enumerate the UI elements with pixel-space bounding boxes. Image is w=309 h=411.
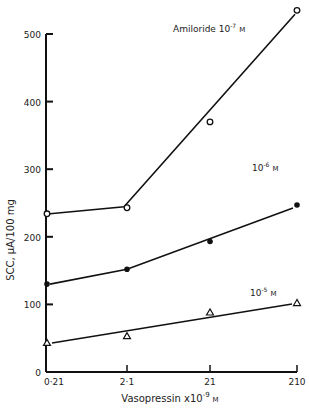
series-labels: Amiloride 10-7M10-6M10-5M [173, 22, 278, 298]
y-tick-label: 300 [24, 165, 41, 175]
series-group [44, 8, 301, 346]
series-line [52, 304, 292, 343]
chart-svg: 0100200300400500 0·212·121210 SCC, μA/10… [0, 0, 309, 411]
open-triangle-marker [207, 309, 214, 315]
x-tick-label: 2·1 [120, 377, 134, 387]
filled-circle-marker [124, 266, 130, 272]
chart: 0100200300400500 0·212·121210 SCC, μA/10… [0, 0, 309, 411]
x-ticks: 0·212·121210 [44, 365, 306, 387]
series-2 [44, 202, 300, 287]
y-tick-label: 500 [24, 30, 41, 40]
series-label: 10-6M [252, 161, 278, 173]
x-tick-label: 210 [288, 377, 305, 387]
open-triangle-marker [124, 333, 131, 339]
filled-circle-marker [207, 239, 213, 245]
y-tick-label: 100 [24, 300, 41, 310]
y-ticks: 0100200300400500 [24, 30, 53, 378]
y-axis-label: SCC, μA/100 mg [5, 199, 16, 281]
open-circle-marker [44, 211, 50, 217]
y-tick-label: 200 [24, 233, 41, 243]
y-tick-label: 400 [24, 98, 41, 108]
x-tick-label: 0·21 [44, 377, 64, 387]
x-tick-label: 21 [204, 377, 215, 387]
series-line [50, 208, 293, 284]
open-circle-marker [207, 119, 213, 125]
axes [46, 34, 297, 372]
open-triangle-marker [294, 300, 301, 306]
series-label: 10-5M [250, 286, 276, 298]
x-axis-label: Vasopressin x10-9M [121, 391, 218, 404]
open-circle-marker [294, 8, 300, 14]
filled-circle-marker [294, 202, 300, 208]
series-line [50, 14, 295, 213]
filled-circle-marker [44, 281, 50, 287]
open-triangle-marker [44, 339, 51, 345]
y-tick-label: 0 [35, 368, 41, 378]
open-circle-marker [124, 205, 130, 211]
series-1 [44, 8, 300, 217]
series-3 [44, 300, 301, 346]
series-label: Amiloride 10-7M [173, 22, 245, 34]
